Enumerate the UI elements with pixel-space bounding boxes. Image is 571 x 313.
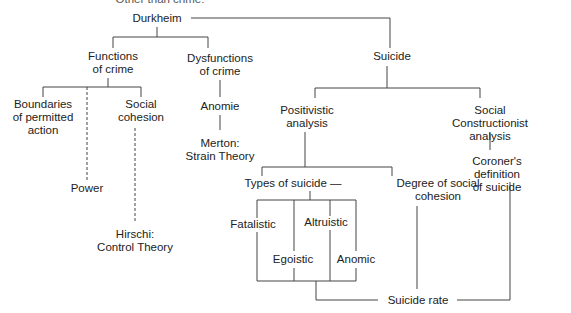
- node-hirschi: Hirschi: Control Theory: [97, 228, 173, 254]
- node-power: Power: [71, 182, 104, 195]
- node-social-constructionist: Social Constructionist analysis: [450, 104, 531, 143]
- node-positivistic: Positivistic analysis: [280, 104, 334, 130]
- node-suicide: Suicide: [373, 50, 411, 63]
- node-fatalistic: Fatalistic: [230, 218, 275, 231]
- node-merton: Merton: Strain Theory: [186, 137, 255, 163]
- node-egoistic: Egoistic: [273, 253, 313, 266]
- node-social-cohesion: Social cohesion: [118, 98, 164, 124]
- node-dysfunctions-of-crime: Dysfunctions of crime: [187, 52, 253, 78]
- node-functions-of-crime: Functions of crime: [88, 50, 138, 76]
- node-anomie: Anomie: [201, 100, 240, 113]
- node-boundaries: Boundaries of permitted action: [13, 98, 74, 137]
- node-durkheim: Durkheim: [132, 12, 181, 25]
- node-degree-of-social-cohesion: Degree of social cohesion: [396, 177, 479, 203]
- clipped-top-text: Other than crime:: [116, 0, 205, 6]
- node-altruistic: Altruistic: [304, 216, 347, 229]
- node-anomic: Anomic: [337, 253, 375, 266]
- node-suicide-rate: Suicide rate: [388, 294, 449, 307]
- node-types-of-suicide: Types of suicide —: [244, 177, 341, 190]
